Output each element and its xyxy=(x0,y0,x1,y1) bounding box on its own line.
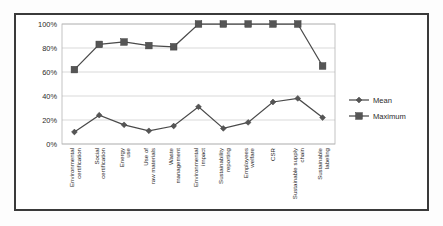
x-category-label: Sustainablelabeling xyxy=(316,147,330,179)
series-markers[interactable] xyxy=(71,21,326,135)
y-tick-label: 80% xyxy=(42,44,57,53)
plot-area-border xyxy=(62,24,335,144)
x-category-label: Environmentalcertification xyxy=(68,148,82,187)
data-point-maximum-3[interactable] xyxy=(146,42,153,49)
series-lines xyxy=(74,24,322,132)
data-point-maximum-4[interactable] xyxy=(170,44,177,51)
data-point-maximum-5[interactable] xyxy=(195,21,202,28)
line-chart[interactable]: 0%20%40%60%80%100% Environmentalcertific… xyxy=(16,15,427,209)
y-tick-label: 20% xyxy=(42,116,57,125)
x-category-label: Socialcertification xyxy=(93,148,107,179)
svg-text:impact: impact xyxy=(199,148,206,166)
x-category-label: Use ofraw materials xyxy=(142,148,156,185)
data-point-maximum-2[interactable] xyxy=(121,39,128,46)
legend-label-mean[interactable]: Mean xyxy=(373,96,392,105)
svg-text:certification: certification xyxy=(99,148,106,179)
data-point-maximum-6[interactable] xyxy=(220,21,227,28)
y-tick-label: 40% xyxy=(42,92,57,101)
x-category-label: Environmentalimpact xyxy=(192,148,206,187)
legend-marker-diamond-icon xyxy=(356,97,362,103)
data-point-maximum-7[interactable] xyxy=(245,21,252,28)
chart-legend[interactable]: MeanMaximum xyxy=(349,96,406,121)
y-axis-tick-labels: 0%20%40%60%80%100% xyxy=(38,20,57,149)
svg-text:raw materials: raw materials xyxy=(149,148,156,184)
data-point-mean-3[interactable] xyxy=(146,128,152,134)
svg-text:reporting: reporting xyxy=(224,148,231,172)
svg-text:use: use xyxy=(124,147,131,157)
svg-text:certification: certification xyxy=(75,148,82,179)
x-category-label: CSR xyxy=(269,147,276,160)
x-category-label: Energyuse xyxy=(118,147,132,167)
x-category-label: Wastemanagement xyxy=(167,147,181,183)
svg-text:welfare: welfare xyxy=(248,147,255,168)
gridlines xyxy=(62,24,335,144)
x-category-label: Employeeswelfare xyxy=(242,147,256,178)
svg-text:labeling: labeling xyxy=(323,148,330,169)
svg-text:chain: chain xyxy=(298,148,305,163)
chart-figure: 0%20%40%60%80%100% Environmentalcertific… xyxy=(0,0,443,226)
legend-label-maximum[interactable]: Maximum xyxy=(373,112,406,121)
series-line-maximum xyxy=(74,24,322,70)
chart-frame: 0%20%40%60%80%100% Environmentalcertific… xyxy=(14,13,429,211)
series-line-mean xyxy=(74,98,322,132)
data-point-maximum-10[interactable] xyxy=(319,63,326,70)
data-point-maximum-1[interactable] xyxy=(96,41,103,48)
svg-text:management: management xyxy=(174,148,181,184)
data-point-maximum-0[interactable] xyxy=(71,66,78,73)
data-point-maximum-8[interactable] xyxy=(270,21,277,28)
data-point-maximum-9[interactable] xyxy=(294,21,301,28)
x-category-label: Sustainabilityreporting xyxy=(217,147,231,184)
data-point-mean-2[interactable] xyxy=(121,122,127,128)
legend-marker-square-icon xyxy=(356,113,363,120)
x-axis-category-labels: EnvironmentalcertificationSocialcertific… xyxy=(68,147,330,199)
y-tick-label: 60% xyxy=(42,68,57,77)
x-category-label: Sustainable supplychain xyxy=(291,147,305,199)
y-tick-label: 100% xyxy=(38,20,57,29)
svg-text:CSR: CSR xyxy=(269,147,276,160)
y-tick-label: 0% xyxy=(46,140,57,149)
